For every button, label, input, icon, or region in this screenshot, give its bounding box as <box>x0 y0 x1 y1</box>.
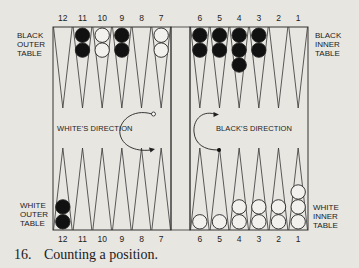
point-number-top: 11 <box>73 13 93 23</box>
point-number-bottom: 6 <box>190 234 210 244</box>
point-number-top: 3 <box>249 13 269 23</box>
point-number-bottom: 12 <box>53 234 73 244</box>
white-checker <box>193 215 207 229</box>
point-number-top: 5 <box>210 13 230 23</box>
point-number-bottom: 9 <box>112 234 132 244</box>
black-checker <box>56 215 70 229</box>
black-checker <box>232 43 246 57</box>
direction-arrows <box>120 112 221 153</box>
point-number-top: 7 <box>151 13 171 23</box>
bar <box>171 27 190 230</box>
backgammon-board <box>0 0 359 268</box>
figure-caption-text: Counting a position. <box>44 247 158 262</box>
point-number-top: 12 <box>53 13 73 23</box>
black-checker <box>193 28 207 42</box>
white-checker <box>95 28 109 42</box>
point-triangle <box>113 148 132 230</box>
black-checker <box>75 43 89 57</box>
point-number-bottom: 3 <box>249 234 269 244</box>
figure-number: 16. <box>14 247 44 263</box>
point-number-bottom: 11 <box>73 234 93 244</box>
point-triangle <box>152 148 171 230</box>
black-checker <box>115 43 129 57</box>
point-number-top: 2 <box>269 13 289 23</box>
label-white-outer-table: WHITE OUTER TABLE <box>20 201 48 228</box>
black-checker <box>75 28 89 42</box>
black-arrow-head-icon <box>214 112 220 117</box>
point-triangle <box>289 27 308 108</box>
figure-caption: 16.Counting a position. <box>14 247 158 263</box>
black-arrow-start-icon <box>217 148 221 152</box>
point-number-bottom: 10 <box>92 234 112 244</box>
black-checker <box>212 43 226 57</box>
white-arrow-head-icon <box>149 148 155 153</box>
label-black-inner-table: BLACK INNER TABLE <box>315 31 341 58</box>
black-checker <box>56 200 70 214</box>
white-checker <box>212 215 226 229</box>
point-triangle <box>132 27 151 108</box>
point-triangle <box>73 148 92 230</box>
black-direction-label: BLACK'S DIRECTION <box>216 124 292 133</box>
white-checker <box>291 215 305 229</box>
white-checker <box>232 200 246 214</box>
point-number-top: 9 <box>112 13 132 23</box>
white-checker <box>252 200 266 214</box>
point-number-bottom: 8 <box>132 234 152 244</box>
white-arrow-start-icon <box>152 112 156 116</box>
white-checker <box>271 215 285 229</box>
black-checker <box>252 28 266 42</box>
white-checker <box>271 200 285 214</box>
black-checker <box>212 28 226 42</box>
white-direction-label: WHITE'S DIRECTION <box>57 124 133 133</box>
black-checker <box>193 43 207 57</box>
point-number-top: 10 <box>92 13 112 23</box>
point-number-bottom: 4 <box>229 234 249 244</box>
white-checker <box>232 215 246 229</box>
point-triangle <box>269 27 288 108</box>
point-number-top: 1 <box>288 13 308 23</box>
black-direction-arrow-icon <box>194 113 218 150</box>
point-number-bottom: 5 <box>210 234 230 244</box>
point-number-top: 4 <box>229 13 249 23</box>
point-triangle <box>93 148 112 230</box>
point-number-bottom: 1 <box>288 234 308 244</box>
point-triangle <box>54 27 73 108</box>
black-checker <box>232 28 246 42</box>
point-number-top: 8 <box>132 13 152 23</box>
white-checker <box>154 28 168 42</box>
label-black-outer-table: BLACK OUTER TABLE <box>17 31 45 58</box>
white-checker <box>291 200 305 214</box>
white-checker <box>291 185 305 199</box>
white-checker <box>154 43 168 57</box>
white-checker <box>252 215 266 229</box>
black-checker <box>232 58 246 72</box>
black-checker <box>252 43 266 57</box>
black-checker <box>115 28 129 42</box>
point-number-top: 6 <box>190 13 210 23</box>
label-white-inner-table: WHITE INNER TABLE <box>313 203 339 230</box>
point-triangle <box>132 148 151 230</box>
point-number-bottom: 2 <box>269 234 289 244</box>
white-checker <box>95 43 109 57</box>
point-number-bottom: 7 <box>151 234 171 244</box>
